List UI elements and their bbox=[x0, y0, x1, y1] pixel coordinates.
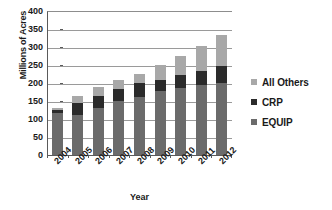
bar-segment-all-others bbox=[216, 35, 227, 66]
bar-segment-equip bbox=[175, 88, 186, 155]
bar-segment-crp bbox=[196, 71, 207, 85]
y-axis-tick-label: 0 bbox=[16, 151, 43, 160]
stacked-bar-chart: Millions of Acres 0501001502002503003504… bbox=[0, 0, 332, 210]
legend-swatch-all-others bbox=[251, 79, 257, 85]
y-axis-tick-label: 150 bbox=[16, 97, 43, 106]
y-axis-tick-label: 100 bbox=[16, 115, 43, 124]
legend-item[interactable]: All Others bbox=[251, 72, 331, 92]
x-axis-tick-labels: 200420052006200720082009201020112012 bbox=[47, 159, 232, 187]
bar-column bbox=[72, 11, 83, 155]
y-axis-tick-label: 400 bbox=[16, 7, 43, 16]
y-axis-tick-label: 200 bbox=[16, 79, 43, 88]
legend-swatch-equip bbox=[251, 119, 257, 125]
x-axis-tick-mark bbox=[47, 155, 48, 158]
legend-item-label: EQUIP bbox=[262, 117, 293, 128]
bar-segment-crp bbox=[216, 66, 227, 83]
y-axis-tick-label: 250 bbox=[16, 61, 43, 70]
bar-segment-all-others bbox=[113, 80, 124, 89]
bar-column bbox=[196, 11, 207, 155]
y-axis-tick-label: 350 bbox=[16, 25, 43, 34]
legend-item-label: All Others bbox=[262, 77, 309, 88]
bar-column bbox=[175, 11, 186, 155]
y-axis-tick-labels: 050100150200250300350400 bbox=[16, 7, 43, 156]
bars-layer bbox=[47, 11, 232, 155]
bar-segment-equip bbox=[134, 97, 145, 155]
bar-segment-all-others bbox=[93, 87, 104, 96]
bar-column bbox=[134, 11, 145, 155]
bar-segment-equip bbox=[113, 101, 124, 155]
bar-column bbox=[113, 11, 124, 155]
y-axis-tick-label: 50 bbox=[16, 133, 43, 142]
bar-segment-crp bbox=[72, 103, 83, 115]
bar-segment-crp bbox=[155, 80, 166, 91]
bar-segment-all-others bbox=[196, 46, 207, 71]
legend-item[interactable]: EQUIP bbox=[251, 112, 331, 132]
legend-item-label: CRP bbox=[262, 97, 283, 108]
bar-segment-all-others bbox=[155, 65, 166, 80]
legend-item[interactable]: CRP bbox=[251, 92, 331, 112]
bar-segment-crp bbox=[175, 75, 186, 88]
legend-swatch-crp bbox=[251, 99, 257, 105]
bar-column bbox=[216, 11, 227, 155]
bar-segment-equip bbox=[216, 83, 227, 155]
y-axis-tick-label: 300 bbox=[16, 43, 43, 52]
bar-segment-all-others bbox=[134, 74, 145, 83]
bar-segment-all-others bbox=[175, 56, 186, 75]
bar-segment-crp bbox=[134, 83, 145, 97]
chart-legend: All OthersCRPEQUIP bbox=[251, 72, 331, 132]
bar-column bbox=[52, 11, 63, 155]
bar-segment-crp bbox=[113, 89, 124, 101]
x-axis-title: Year bbox=[47, 192, 232, 202]
bar-column bbox=[93, 11, 104, 155]
bar-column bbox=[155, 11, 166, 155]
bar-segment-crp bbox=[93, 96, 104, 108]
bar-segment-equip bbox=[155, 91, 166, 155]
bar-segment-equip bbox=[196, 85, 207, 155]
